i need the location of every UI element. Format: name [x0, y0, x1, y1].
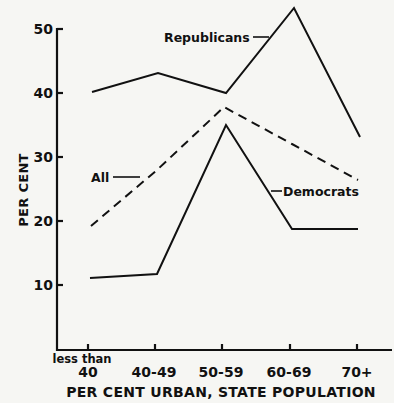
- y-axis-title: PER CENT: [16, 153, 31, 227]
- all-label: All: [91, 170, 109, 185]
- x-tick-label-3: 60-69: [267, 364, 312, 380]
- republicans-line: [92, 8, 360, 137]
- x-tick-label-4: 70+: [341, 364, 372, 380]
- y-tick-label-20: 20: [34, 213, 54, 229]
- x-tick-label-1: 40-49: [132, 364, 177, 380]
- x-tick-label-2: 50-59: [199, 364, 244, 380]
- y-tick-label-40: 40: [34, 85, 54, 101]
- y-tick-label-50: 50: [34, 21, 54, 37]
- series-democrats: Democrats: [90, 125, 359, 278]
- y-ticks: 50 40 30 20 10: [34, 21, 63, 293]
- y-tick-label-30: 30: [34, 149, 54, 165]
- y-tick-label-10: 10: [34, 277, 54, 293]
- x-axis-title: PER CENT URBAN, STATE POPULATION: [66, 384, 376, 400]
- series-all: All: [91, 107, 358, 226]
- line-chart: 50 40 30 20 10 less than 40 40-49 50-59 …: [0, 0, 394, 403]
- democrats-line: [90, 125, 358, 278]
- democrats-label: Democrats: [283, 184, 359, 199]
- republicans-label: Republicans: [164, 30, 250, 45]
- x-tick-label-0-line2: 40: [78, 364, 98, 380]
- all-line: [91, 107, 358, 226]
- series-republicans: Republicans: [92, 8, 360, 137]
